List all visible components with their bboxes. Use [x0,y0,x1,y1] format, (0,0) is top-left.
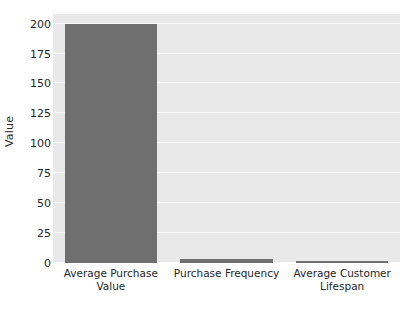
bar-chart-figure: Value 0255075100125150175200 Average Pur… [0,0,420,310]
y-axis-tick-labels: 0255075100125150175200 [18,14,51,263]
y-axis-tick-label: 150 [18,77,51,90]
bar [296,261,389,263]
x-axis-tick-label: Purchase Frequency [169,267,285,280]
x-axis-tick-label: Average Purchase Value [53,267,169,293]
x-axis-tick-label: Average Customer Lifespan [284,267,400,293]
y-axis-label-text: Value [4,116,17,147]
plot-area [53,14,400,263]
x-axis-tick-labels: Average Purchase ValuePurchase Frequency… [53,267,400,307]
bar [180,259,273,263]
y-axis-tick-label: 100 [18,137,51,150]
y-axis-tick-label: 75 [18,167,51,180]
y-axis-tick-label: 200 [18,17,51,30]
y-axis-tick-label: 125 [18,107,51,120]
bar [65,24,158,263]
y-axis-tick-label: 175 [18,47,51,60]
y-axis-label: Value [0,0,20,263]
y-axis-tick-label: 50 [18,197,51,210]
y-axis-tick-label: 0 [18,257,51,270]
y-axis-tick-label: 25 [18,227,51,240]
